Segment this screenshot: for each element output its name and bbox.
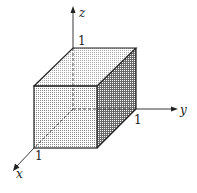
cube-diagram: z 1 y 1 x 1	[0, 0, 197, 193]
x-tick-label: 1	[35, 149, 43, 163]
y-axis-label: y	[179, 103, 187, 117]
z-tick-label: 1	[78, 34, 86, 48]
x-axis-label: x	[16, 167, 23, 181]
y-axis	[136, 107, 178, 112]
y-arrow-icon	[171, 107, 178, 112]
z-arrow-icon	[71, 6, 76, 13]
z-axis	[71, 6, 76, 48]
z-axis-label: z	[78, 6, 86, 20]
y-tick-label: 1	[134, 113, 142, 127]
